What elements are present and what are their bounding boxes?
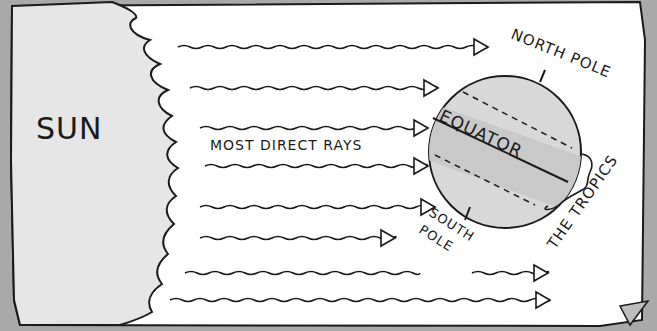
sun-label: SUN <box>36 111 102 146</box>
sun-earth-diagram: SUN EQUATOR NORTH POLE SOUTH POLE THE TR… <box>0 0 657 331</box>
most-direct-rays-label: MOST DIRECT RAYS <box>210 137 362 153</box>
diagram-canvas: SUN EQUATOR NORTH POLE SOUTH POLE THE TR… <box>0 0 657 331</box>
